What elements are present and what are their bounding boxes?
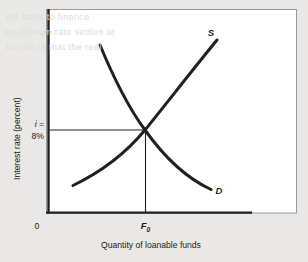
plot-frame [47,10,297,214]
supply-curve-label: S [208,27,215,38]
equilibrium-quantity-label: F0 [141,220,151,233]
equilibrium-quantity-subscript: 0 [147,226,151,233]
demand-curve-label: D [216,185,223,196]
origin-label: 0 [35,221,40,231]
equilibrium-rate-label-line2: 8% [32,131,45,141]
loanable-funds-figure: the bank to finance equilibrium rate set… [0,0,308,262]
x-axis-title: Quantity of loanable funds [101,240,201,250]
y-axis-title: Interest rate (percent) [12,97,22,180]
equilibrium-rate-label-line1: i = [35,119,44,129]
chart-svg: S D Interest rate (percent) i = 8% 0 F0 … [0,0,308,262]
